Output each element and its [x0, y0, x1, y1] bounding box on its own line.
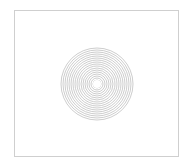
concentric-rings-graphic — [15, 11, 180, 158]
figure-frame-panel — [14, 10, 179, 157]
figure-root — [0, 0, 191, 167]
center-hole-icon — [93, 80, 101, 88]
plot-area — [15, 11, 178, 156]
